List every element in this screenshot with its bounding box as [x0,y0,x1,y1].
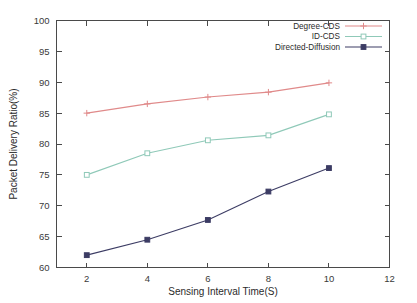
data-point-marker [145,237,150,242]
series-line [87,114,329,175]
y-tick-label: 95 [39,46,50,57]
data-point-marker [205,138,210,143]
data-point-marker [361,34,366,39]
plot-frame [57,21,390,268]
legend-label-degree-cds: Degree-CDS [293,22,340,31]
data-point-marker [84,172,89,177]
chart-legend: Degree-CDSID-CDSDirected-Diffusion [275,22,382,52]
y-tick-label: 65 [39,231,50,242]
data-series-group [84,80,333,258]
y-axis: 6065707580859095100 [34,15,390,273]
x-tick-label: 10 [324,273,335,284]
y-tick-label: 85 [39,108,50,119]
y-tick-label: 60 [39,262,50,273]
line-chart-plot: 6065707580859095100 24681012 Sensing Int… [0,0,417,303]
y-tick-label: 70 [39,200,50,211]
data-point-marker [145,151,150,156]
y-axis-title: Packet Delivery Ratio(%) [8,88,19,199]
data-point-marker [266,133,271,138]
data-point-marker [205,218,210,223]
x-tick-label: 12 [384,273,395,284]
y-tick-label: 90 [39,77,50,88]
y-tick-label: 75 [39,169,50,180]
legend-label-id-cds: ID-CDS [312,32,341,41]
legend-label-directed-diffusion: Directed-Diffusion [275,43,340,52]
data-point-marker [361,45,366,50]
data-point-marker [327,112,332,117]
data-point-marker [84,253,89,258]
x-tick-label: 2 [84,273,89,284]
chart-figure: 6065707580859095100 24681012 Sensing Int… [0,0,417,303]
series-id-cds [84,112,331,177]
series-degree-cds [84,80,333,117]
x-tick-label: 4 [145,273,150,284]
series-line [87,168,329,255]
y-tick-label: 100 [34,15,50,26]
data-point-marker [327,166,332,171]
y-tick-label: 80 [39,138,50,149]
x-tick-label: 6 [205,273,210,284]
x-tick-label: 8 [266,273,271,284]
series-directed-diffusion [84,166,331,258]
data-point-marker [266,189,271,194]
x-axis-title: Sensing Interval Time(S) [168,286,278,297]
